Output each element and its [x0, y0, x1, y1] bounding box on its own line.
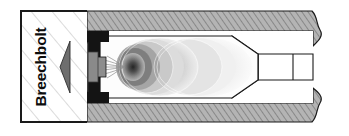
breechbolt-label: Breechbolt	[32, 27, 49, 106]
callout-box: Breechbolt	[21, 11, 87, 122]
bore	[258, 54, 313, 80]
breechbolt-cutaway-svg: Breechbolt	[0, 0, 349, 136]
combustion-chamber	[100, 36, 258, 98]
diagram-canvas: Breechbolt	[0, 0, 349, 136]
